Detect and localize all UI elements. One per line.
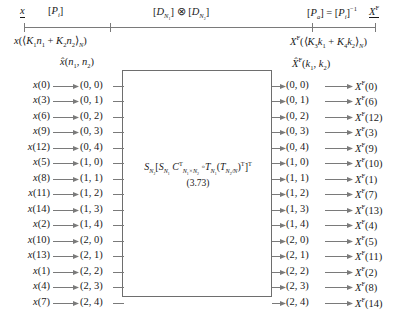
input-sample-label: x(6) [0,110,50,121]
output-index-pair: (2, 0) [286,234,326,245]
input-arrow [53,284,79,291]
axis-tick-right1 [312,23,313,32]
output-box-connector [272,284,286,291]
input-arrow-glyph [53,160,79,167]
top-axis-line [24,27,376,28]
input-arrow-glyph [53,207,79,214]
input-box-connector [113,114,124,121]
input-box-connector [113,145,124,152]
input-arrow-glyph [53,238,79,245]
input-connector-glyph [113,160,124,167]
input-sample-label: x(10) [0,234,50,245]
output-box-connector [272,129,286,136]
output-box-connector [272,83,286,90]
output-box-connector [272,98,286,105]
input-connector-glyph [113,98,124,105]
input-connector-glyph [113,284,124,291]
input-connector-glyph [113,176,124,183]
box-formula: SN2[SN1 CTN1×N2 ◦TN1(TN2/N)T]T [127,160,269,177]
output-box-connector [272,300,286,307]
output-box-connector [272,269,286,276]
input-sample-label: x(8) [0,172,50,183]
input-arrow [53,269,79,276]
input-arrow [53,145,79,152]
input-connector-glyph [113,83,124,90]
output-arrow-glyph [325,145,353,152]
output-connector-glyph [272,145,286,152]
input-connector-glyph [113,207,124,214]
output-index-pair: (0, 3) [286,125,326,136]
input-box-connector [113,222,124,229]
input-connector-glyph [113,253,124,260]
output-arrow [325,114,353,121]
output-column-header: X̂F(k1, k2) [292,56,330,71]
output-connector-glyph [272,176,286,183]
output-arrow [325,222,353,229]
output-sample-label: XF(9) [355,141,409,154]
input-box-connector [113,207,124,214]
output-arrow-glyph [325,98,353,105]
input-connector-glyph [113,191,124,198]
output-index-pair: (0, 4) [286,141,326,152]
axis-label-permutation-pa: [Pa] = [Pi]−1 [307,5,357,20]
output-arrow-glyph [325,300,353,307]
axis-label-permutation-pi: [Pi] [48,5,63,18]
input-arrow [53,83,79,90]
input-sample-label: x(11) [0,187,50,198]
input-sample-label: x(7) [0,296,50,307]
output-arrow [325,207,353,214]
input-connector-glyph [113,222,124,229]
output-box-connector [272,191,286,198]
output-index-pair: (0, 0) [286,79,326,90]
output-arrow-glyph [325,83,353,90]
output-sample-label: XF(8) [355,280,409,293]
input-connector-glyph [113,238,124,245]
output-arrow [325,284,353,291]
output-arrow-glyph [325,160,353,167]
output-connector-glyph [272,114,286,121]
output-connector-glyph [272,284,286,291]
output-sample-label: XF(3) [355,125,409,138]
output-index-pair: (2, 4) [286,296,326,307]
output-sample-label: XF(0) [355,79,409,92]
axis-label-output-vector: XF [369,5,379,18]
output-index-pair: (2, 3) [286,280,326,291]
input-box-connector [113,160,124,167]
output-index-pair: (1, 3) [286,203,326,214]
input-arrow [53,114,79,121]
axis-tick-right2 [375,23,376,32]
output-sample-label: XF(10) [355,156,409,169]
output-connector-glyph [272,98,286,105]
output-arrow [325,83,353,90]
input-arrow-glyph [53,300,79,307]
input-arrow-glyph [53,114,79,121]
input-arrow-glyph [53,176,79,183]
output-arrow [325,269,353,276]
output-arrow-glyph [325,207,353,214]
input-sample-label: x(1) [0,265,50,276]
figure-canvas: x [Pi] [DN1] ⊗ [DN2] [Pa] = [Pi]−1 XF x(… [0,0,409,314]
output-index-pair: (1, 0) [286,156,326,167]
axis-label-input-vector: x [20,5,25,18]
input-connector-glyph [113,145,124,152]
output-connector-glyph [272,253,286,260]
output-arrow [325,145,353,152]
output-connector-glyph [272,238,286,245]
input-sample-label: x(3) [0,94,50,105]
input-arrow-glyph [53,145,79,152]
input-arrow [53,207,79,214]
input-box-connector [113,253,124,260]
output-arrow-glyph [325,269,353,276]
input-arrow-glyph [53,253,79,260]
input-sample-label: x(0) [0,79,50,90]
output-connector-glyph [272,300,286,307]
output-arrow-glyph [325,284,353,291]
box-equation-number: (3.73) [127,178,269,188]
output-box-connector [272,114,286,121]
input-connector-glyph [113,269,124,276]
input-arrow-glyph [53,83,79,90]
output-arrow-glyph [325,253,353,260]
input-arrow [53,222,79,229]
input-box-connector [113,98,124,105]
output-sample-label: XF(2) [355,265,409,278]
